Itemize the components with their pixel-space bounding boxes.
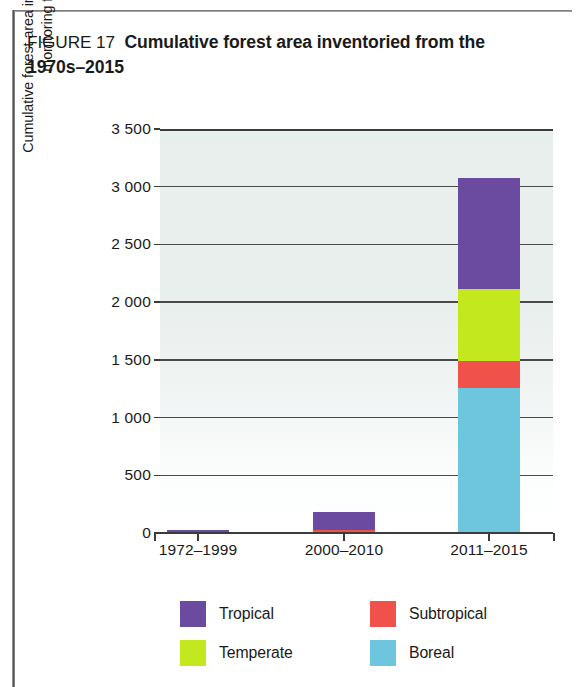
x-axis-tick bbox=[197, 533, 199, 541]
x-axis-tick bbox=[488, 533, 490, 541]
y-axis-tick-label: 1 000 bbox=[111, 409, 151, 427]
legend-row: TropicalSubtropical bbox=[180, 601, 560, 640]
y-axis-tick-label: 1 500 bbox=[111, 351, 151, 369]
y-axis-title-text: Cumulative forest area inventoried in th… bbox=[19, 0, 57, 169]
bar-stack[interactable] bbox=[458, 178, 520, 534]
x-axis-end-tick bbox=[154, 533, 156, 541]
legend-swatch-icon bbox=[180, 640, 206, 666]
y-axis-title: Cumulative forest area inventoried in th… bbox=[18, 0, 58, 169]
bar-stack[interactable] bbox=[313, 512, 375, 533]
plot-top-border bbox=[160, 129, 553, 131]
page-edge-bleed bbox=[572, 0, 576, 687]
x-axis-end-tick bbox=[553, 533, 555, 541]
y-axis-tick-label: 0 bbox=[142, 524, 151, 542]
x-axis-tick-label: 2011–2015 bbox=[409, 541, 569, 559]
bar-segment-tropical[interactable] bbox=[458, 178, 520, 290]
legend-swatch-icon bbox=[370, 640, 396, 666]
x-axis-tick-label: 1972–1999 bbox=[118, 541, 278, 559]
x-axis-tick-label: 2000–2010 bbox=[264, 541, 424, 559]
legend-item-temperate[interactable]: Temperate bbox=[180, 640, 370, 666]
figure-caption: FIGURE 17 Cumulative forest area invento… bbox=[27, 30, 527, 80]
legend-label: Temperate bbox=[219, 644, 293, 662]
legend-label: Subtropical bbox=[409, 605, 487, 623]
x-axis-line bbox=[154, 532, 553, 534]
legend-swatch-icon bbox=[180, 601, 206, 627]
x-axis-tick bbox=[343, 533, 345, 541]
chart-legend: TropicalSubtropicalTemperateBoreal bbox=[180, 601, 560, 679]
bar-segment-tropical[interactable] bbox=[313, 512, 375, 530]
y-axis-tick bbox=[154, 359, 160, 361]
bar-segment-subtropical[interactable] bbox=[458, 361, 520, 388]
y-axis-tick bbox=[154, 186, 160, 188]
y-axis-tick bbox=[154, 301, 160, 303]
legend-swatch-icon bbox=[370, 601, 396, 627]
bar-segment-temperate[interactable] bbox=[458, 289, 520, 361]
y-axis-tick-label: 3 500 bbox=[111, 120, 151, 138]
bar-segment-boreal[interactable] bbox=[458, 388, 520, 533]
y-axis-tick-label: 2 500 bbox=[111, 235, 151, 253]
y-axis-tick bbox=[154, 244, 160, 246]
legend-row: TemperateBoreal bbox=[180, 640, 560, 679]
legend-item-tropical[interactable]: Tropical bbox=[180, 601, 370, 627]
page-rule-top bbox=[12, 10, 576, 12]
y-axis-tick-label: 2 000 bbox=[111, 293, 151, 311]
page-rule-left bbox=[12, 10, 15, 687]
y-axis-tick-label: 3 000 bbox=[111, 178, 151, 196]
legend-label: Boreal bbox=[409, 644, 454, 662]
legend-label: Tropical bbox=[219, 605, 274, 623]
legend-item-boreal[interactable]: Boreal bbox=[370, 640, 560, 666]
plot-area bbox=[160, 129, 553, 533]
legend-item-subtropical[interactable]: Subtropical bbox=[370, 601, 560, 627]
y-axis-tick bbox=[154, 475, 160, 477]
y-axis-tick bbox=[154, 417, 160, 419]
y-axis-tick-label: 500 bbox=[125, 466, 151, 484]
figure-container: FIGURE 17 Cumulative forest area invento… bbox=[0, 0, 576, 687]
